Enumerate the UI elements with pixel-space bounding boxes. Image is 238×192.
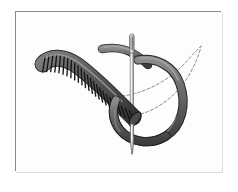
illustration-frame xyxy=(15,11,221,171)
illustration-canvas xyxy=(16,12,222,172)
needle-eye xyxy=(131,36,132,49)
illustration-root: Surgical needle with coiled suture threa… xyxy=(0,0,238,192)
